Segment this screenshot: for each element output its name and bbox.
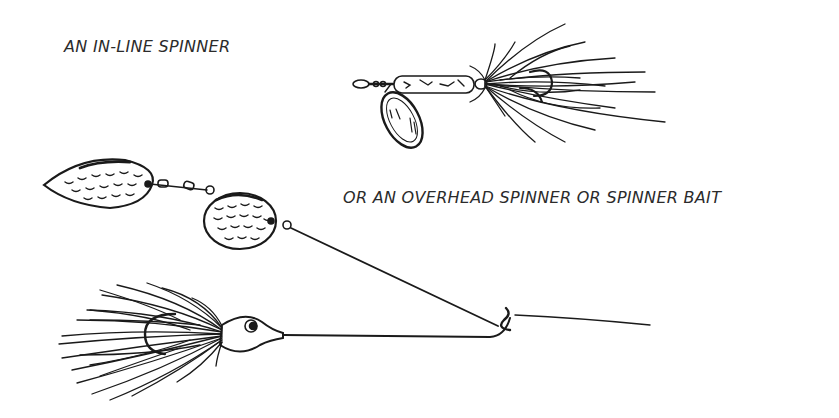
inline-spinner-illustration: [353, 24, 665, 154]
spinner-bait-illustration: [44, 159, 650, 400]
lure-illustrations: [0, 0, 839, 418]
